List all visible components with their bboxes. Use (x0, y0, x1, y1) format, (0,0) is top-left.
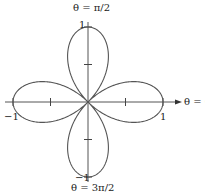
polar-plot (0, 0, 205, 195)
tick-label-right: 1 (160, 112, 166, 122)
x-axis-arrow-icon (175, 100, 182, 105)
tick-label-left: −1 (4, 112, 19, 122)
right-axis-label: θ = 0 (184, 97, 205, 107)
tick-label-top: 1 (79, 20, 85, 30)
bottom-axis-label: θ = 3π/2 (71, 183, 114, 193)
axes (5, 22, 182, 182)
tick-label-bottom: −1 (75, 173, 90, 183)
top-axis-label: θ = π/2 (73, 3, 110, 13)
